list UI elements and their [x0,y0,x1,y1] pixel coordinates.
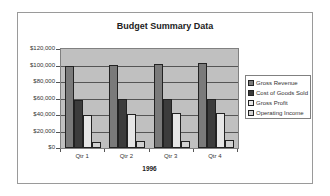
legend-swatch-icon [248,100,254,106]
y-tick-label: $60,000 [18,95,55,101]
bar-cost-of-goods-sold [163,99,172,149]
gridline [61,66,238,67]
legend-label: Gross Revenue [256,80,298,86]
bar-operating-income [225,140,234,148]
y-tick-label: $0 [18,144,55,150]
x-tick-label: Qtr 2 [106,153,146,159]
y-tick-label: $100,000 [18,62,55,68]
bar-gross-revenue [109,65,118,148]
legend-label: Cost of Goods Sold [256,90,308,96]
legend-item: Operating Income [248,108,308,118]
gridline [61,82,238,83]
x-tick [149,149,150,152]
y-tick-label: $20,000 [18,128,55,134]
bar-cost-of-goods-sold [207,99,216,149]
x-tick-label: Qtr 4 [195,153,235,159]
legend-swatch-icon [248,90,254,96]
bar-gross-profit [127,114,136,148]
y-tick-label: $40,000 [18,111,55,117]
bar-gross-profit [83,115,92,148]
x-tick-label: Qtr 1 [62,153,102,159]
legend-item: Gross Revenue [248,78,308,88]
y-tick-label: $120,000 [18,45,55,51]
x-tick-label: Qtr 3 [151,153,191,159]
x-tick [193,149,194,152]
bar-operating-income [181,141,190,148]
legend-item: Cost of Goods Sold [248,88,308,98]
x-axis-title: 1996 [60,165,239,172]
bar-cost-of-goods-sold [118,99,127,149]
legend-swatch-icon [248,80,254,86]
legend: Gross RevenueCost of Goods SoldGross Pro… [245,75,311,119]
legend-item: Gross Profit [248,98,308,108]
chart-frame: Budget Summary Data $0$20,000$40,000$60,… [17,12,313,184]
y-tick-label: $80,000 [18,78,55,84]
x-tick [60,149,61,152]
bar-cost-of-goods-sold [74,100,83,148]
plot-area [60,48,239,149]
chart-title: Budget Summary Data [18,21,312,31]
bar-gross-revenue [65,66,74,149]
legend-swatch-icon [248,110,254,116]
bar-gross-profit [216,113,225,148]
bar-gross-revenue [198,63,207,148]
bar-operating-income [92,142,101,148]
bar-operating-income [136,141,145,148]
bar-gross-profit [172,113,181,148]
x-tick [237,149,238,152]
legend-label: Operating Income [256,110,304,116]
x-tick [104,149,105,152]
bar-gross-revenue [154,64,163,148]
legend-label: Gross Profit [256,100,288,106]
